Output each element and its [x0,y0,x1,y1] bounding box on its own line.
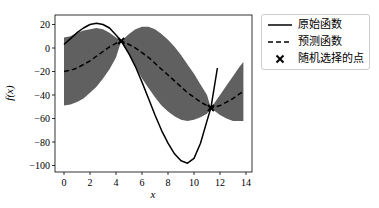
x-axis-ticks: 02468101214 [62,172,252,188]
y-tick-label: −80 [34,137,50,148]
x-tick-label: 4 [114,177,119,188]
y-tick-label: −40 [34,90,50,101]
x-tick-label: 12 [215,177,225,188]
y-axis-ticks: 200−20−40−60−80−100 [29,19,55,171]
legend-label: 预测函数 [298,34,342,50]
x-tick-label: 14 [241,177,251,188]
y-tick-label: 20 [40,19,50,30]
y-tick-label: −20 [34,66,50,77]
x-axis-label: x [150,188,156,200]
plot-area [64,23,243,163]
y-tick-label: −100 [29,160,50,171]
x-tick-label: 0 [62,177,67,188]
x-tick-label: 2 [88,177,93,188]
x-marker-icon [268,51,292,67]
y-axis-label: f(x) [3,85,16,101]
legend: 原始函数 预测函数 随机选择的点 [261,14,370,70]
solid-line-icon [268,17,292,33]
legend-item-points: 随机选择的点 [262,51,369,67]
legend-label: 随机选择的点 [298,51,364,67]
legend-item-original: 原始函数 [262,17,369,33]
x-tick-label: 6 [140,177,145,188]
y-tick-label: 0 [45,43,50,54]
legend-label: 原始函数 [298,17,342,33]
dashed-line-icon [268,34,292,50]
y-tick-label: −60 [34,113,50,124]
x-tick-label: 10 [189,177,199,188]
x-tick-label: 8 [166,177,171,188]
legend-item-predicted: 预测函数 [262,34,369,50]
